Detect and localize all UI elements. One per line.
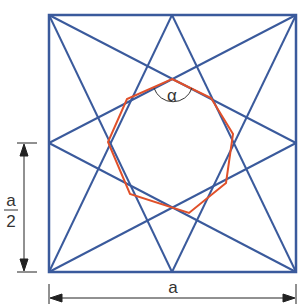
side-label: a — [168, 278, 178, 297]
half-side-numerator: a — [6, 191, 16, 210]
half-side-dimension — [17, 143, 37, 272]
octagram-diagram: α a 2 a — [0, 0, 306, 306]
half-side-denominator: 2 — [6, 212, 15, 231]
angle-label: α — [167, 86, 177, 105]
square — [49, 15, 296, 272]
star-lines — [49, 15, 296, 272]
